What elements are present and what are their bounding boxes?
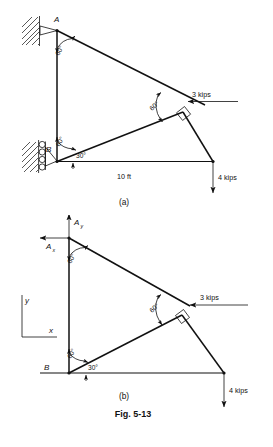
dimension-label: 10 ft — [117, 172, 131, 181]
reaction-ax-subscript: x — [52, 247, 56, 253]
reaction-ax-label: A — [45, 242, 51, 251]
angle-label-a: 60° — [54, 44, 65, 56]
panel-a-caption: (a) — [119, 197, 129, 207]
angle-label-b-lower: 30° — [76, 152, 86, 159]
angle-label-b-lower: 30° — [88, 364, 98, 371]
load-3kips-label: 3 kips — [200, 293, 219, 302]
node-b — [67, 371, 70, 374]
angle-label-b-upper: 60° — [54, 135, 65, 147]
axis-y-label: y — [24, 296, 30, 305]
panel-b-diagram: A y A x y x 60° 60° 30° 60° B 3 kips — [0, 215, 273, 447]
joint-b-label: B — [46, 145, 52, 154]
panel-a-diagram: 60° 60° 30° 60° A B 3 kips 4 kips 10 ft … — [0, 0, 273, 215]
figure-page: 60° 60° 30° 60° A B 3 kips 4 kips 10 ft … — [0, 0, 273, 447]
angle-label-b-upper: 60° — [66, 347, 77, 359]
reaction-ay-label: A — [73, 218, 79, 227]
joint-b-label: B — [44, 363, 50, 372]
axis-x-label: x — [48, 326, 54, 335]
joint-a-label: A — [53, 15, 59, 24]
load-4kips-label: 4 kips — [218, 173, 237, 182]
load-3kips-label: 3 kips — [192, 90, 211, 99]
panel-b-caption: (b) — [119, 391, 129, 401]
angle-label-joint: 60° — [148, 100, 160, 112]
load-4kips-label: 4 kips — [229, 386, 248, 395]
wall-support-a-icon — [22, 16, 57, 46]
angle-label-joint: 60° — [148, 302, 160, 314]
wall-support-b-icon — [22, 140, 57, 173]
reaction-ay-subscript: y — [80, 223, 84, 229]
figure-number: Fig. 5-13 — [115, 409, 152, 419]
truss-members — [57, 31, 213, 162]
node-b — [55, 160, 58, 163]
node-a — [55, 29, 58, 32]
angle-label-a: 60° — [66, 252, 77, 264]
